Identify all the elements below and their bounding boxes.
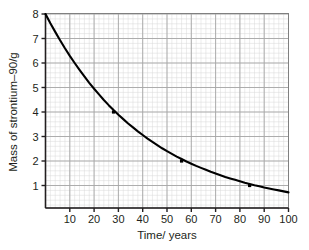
marked-point xyxy=(248,184,251,187)
y-tick-label: 7 xyxy=(32,33,38,45)
x-axis-tick-labels: 102030405060708090100 xyxy=(64,213,298,225)
y-tick-label: 5 xyxy=(32,82,38,94)
y-tick-label: 1 xyxy=(32,180,38,192)
y-tick-label: 6 xyxy=(32,57,38,69)
x-tick-label: 20 xyxy=(88,213,100,225)
x-tick-label: 60 xyxy=(185,213,197,225)
y-axis-tick-labels: 12345678 xyxy=(32,8,38,192)
y-tick-label: 3 xyxy=(32,131,38,143)
x-tick-label: 90 xyxy=(258,213,270,225)
x-axis-title: Time/ years xyxy=(137,229,197,241)
x-tick-label: 30 xyxy=(112,213,124,225)
y-tick-label: 8 xyxy=(32,8,38,20)
marked-point xyxy=(180,159,183,162)
x-tick-label: 50 xyxy=(161,213,173,225)
y-tick-label: 2 xyxy=(32,155,38,167)
x-tick-label: 10 xyxy=(64,213,76,225)
x-tick-label: 100 xyxy=(279,213,297,225)
x-tick-label: 40 xyxy=(137,213,149,225)
marked-point xyxy=(112,110,115,113)
chart-figure: 12345678 102030405060708090100 Time/ yea… xyxy=(0,0,309,250)
y-axis-title: Mass of strontium–90/g xyxy=(7,52,19,172)
y-tick-label: 4 xyxy=(32,106,38,118)
x-tick-label: 70 xyxy=(209,213,221,225)
strontium-decay-chart: 12345678 102030405060708090100 Time/ yea… xyxy=(0,0,309,250)
x-tick-label: 80 xyxy=(234,213,246,225)
